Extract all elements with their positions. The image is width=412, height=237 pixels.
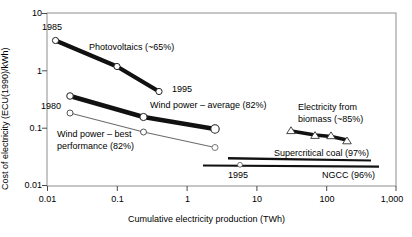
annotation-wind-best-line1: Wind power – best [57, 129, 132, 139]
annotation-pv-end-year: 1995 [172, 84, 192, 94]
y-axis-title-wrapper: Cost of electricity (ECU(1990)/kWh) [0, 0, 16, 200]
x-tick-0.01: 0.01 [27, 194, 68, 204]
y-tick-1: 1 [22, 66, 42, 76]
y-tick-0.01: 0.01 [10, 180, 42, 190]
marker-1995-fossil [238, 162, 243, 167]
x-tick-100: 100 [310, 194, 344, 204]
annotation-wind-average: Wind power – average (82%) [150, 100, 267, 110]
y-tick-0.1: 0.1 [16, 123, 42, 133]
y-axis-ticks [42, 14, 47, 186]
annotation-photovoltaics: Photovoltaics (~65%) [89, 42, 174, 52]
annotation-supercritical-coal: Supercritical coal (97%) [274, 148, 369, 158]
x-axis-ticks [48, 186, 397, 191]
x-tick-0.1: 0.1 [100, 194, 135, 204]
annotation-bottom-year: 1995 [228, 170, 248, 180]
y-axis-title: Cost of electricity (ECU(1990)/kWh) [0, 47, 10, 190]
y-tick-10: 10 [22, 8, 42, 18]
annotation-ngcc: NGCC (96%) [322, 170, 375, 180]
x-axis-title: Cumulative electricity production (TWh) [128, 214, 285, 224]
annotation-pv-start-year: 1985 [42, 22, 62, 32]
x-tick-1000: 1,000 [374, 194, 410, 204]
annotation-biomass-line2: biomass (~85%) [298, 114, 363, 124]
x-tick-1: 1 [174, 194, 201, 204]
annotation-biomass-line1: Electricity from [298, 102, 357, 112]
chart-figure: Cost of electricity (ECU(1990)/kWh) 10 1… [0, 0, 412, 237]
annotation-wind-start-year: 1980 [41, 101, 61, 111]
annotation-wind-best-line2: performance (82%) [57, 141, 134, 151]
x-tick-10: 10 [242, 194, 272, 204]
